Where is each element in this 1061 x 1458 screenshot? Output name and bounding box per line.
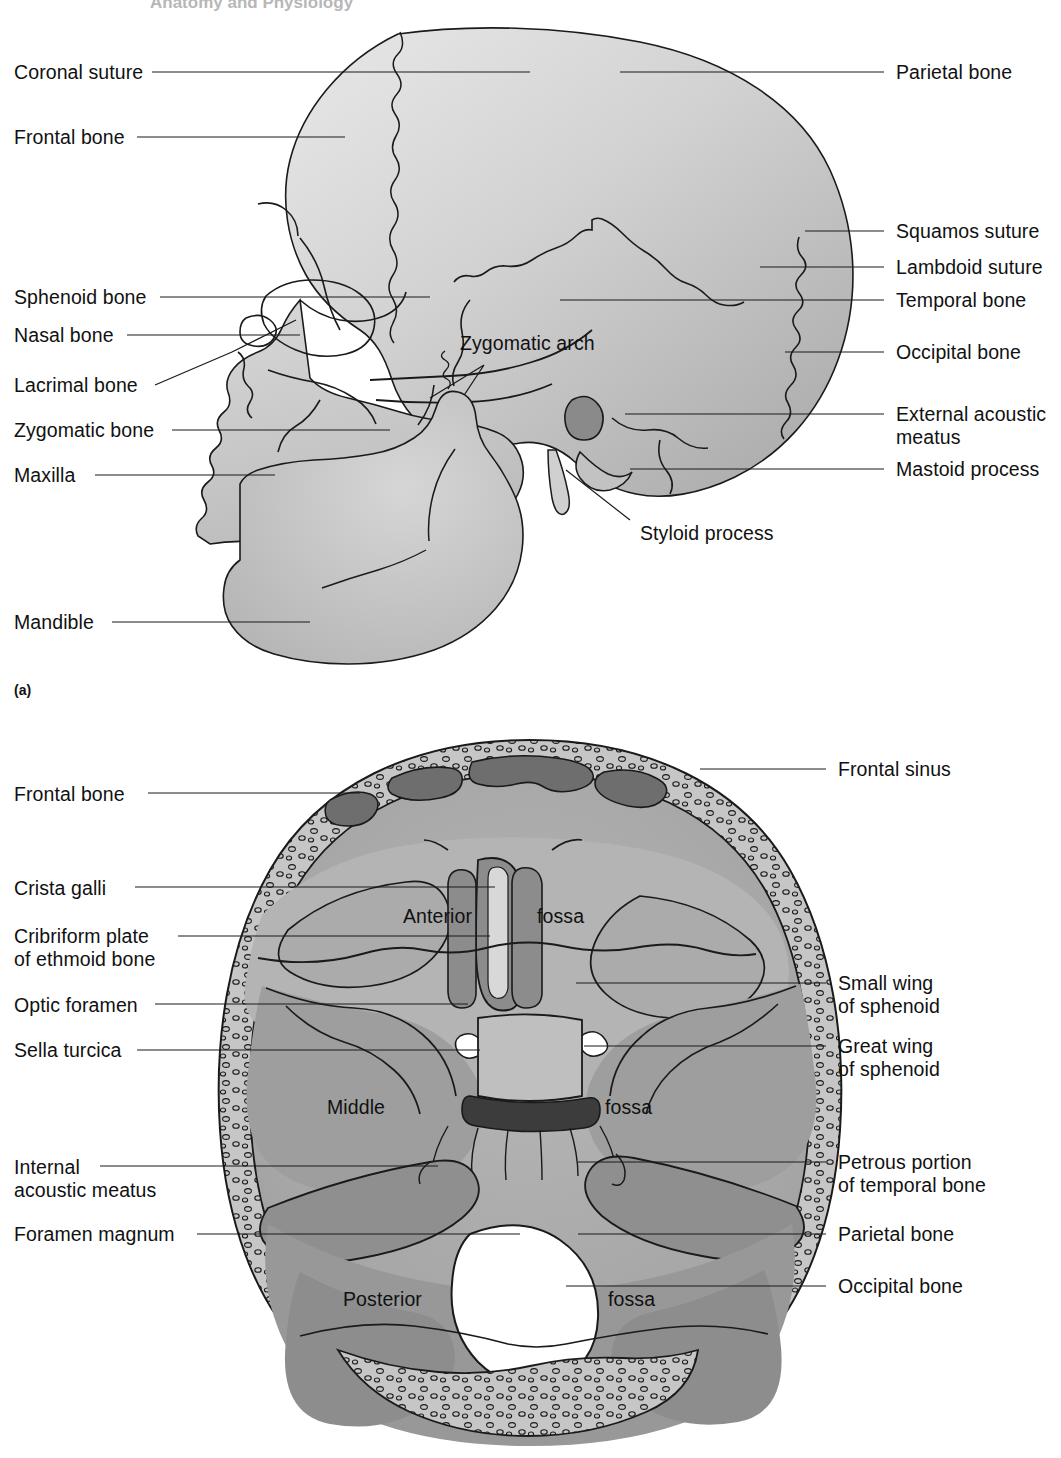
- label-external-acoustic-line2: meatus: [896, 425, 961, 449]
- label-mastoid-process: Mastoid process: [896, 457, 1039, 481]
- label-occipital-bone: Occipital bone: [896, 340, 1021, 364]
- label-fossa-ant: fossa: [537, 904, 584, 928]
- label-great-wing: Great wing: [838, 1034, 933, 1058]
- panel-marker-a: (a): [14, 682, 31, 698]
- external-acoustic-meatus-shape: [565, 396, 603, 440]
- label-crista-galli: Crista galli: [14, 876, 106, 900]
- label-parietal-bone: Parietal bone: [896, 60, 1012, 84]
- label-temporal-bone: Temporal bone: [896, 288, 1026, 312]
- label-nasal-bone: Nasal bone: [14, 323, 114, 347]
- leader-lacrimal-bone: [155, 352, 232, 385]
- label-coronal-suture: Coronal suture: [14, 60, 143, 84]
- label-occipital-bone-b: Occipital bone: [838, 1274, 963, 1298]
- cribriform-plate-left: [448, 870, 476, 1008]
- label-sphenoid-bone: Sphenoid bone: [14, 285, 147, 309]
- label-parietal-bone-b: Parietal bone: [838, 1222, 954, 1246]
- label-small-wing-l2: of sphenoid: [838, 994, 940, 1018]
- label-frontal-bone: Frontal bone: [14, 125, 125, 149]
- label-lambdoid-suture: Lambdoid suture: [896, 255, 1043, 279]
- label-middle: Middle: [327, 1095, 385, 1119]
- label-anterior: Anterior: [403, 904, 472, 928]
- label-cribriform-plate-l2: of ethmoid bone: [14, 947, 155, 971]
- cribriform-plate-right: [512, 868, 542, 1008]
- label-zygomatic-arch: Zygomatic arch: [460, 331, 595, 355]
- sella-turcica-shape: [478, 1014, 582, 1101]
- label-small-wing: Small wing: [838, 971, 933, 995]
- page-header-fragment: Anatomy and Physiology: [150, 0, 353, 13]
- label-fossa-post: fossa: [608, 1287, 655, 1311]
- label-frontal-bone-b: Frontal bone: [14, 782, 125, 806]
- label-petrous-portion-l2: of temporal bone: [838, 1173, 986, 1197]
- label-foramen-magnum: Foramen magnum: [14, 1222, 175, 1246]
- label-external-acoustic: External acoustic: [896, 402, 1046, 426]
- label-posterior: Posterior: [343, 1287, 422, 1311]
- label-great-wing-l2: of sphenoid: [838, 1057, 940, 1081]
- label-frontal-sinus: Frontal sinus: [838, 757, 951, 781]
- label-zygomatic-bone: Zygomatic bone: [14, 418, 154, 442]
- label-squamos-suture: Squamos suture: [896, 219, 1039, 243]
- label-optic-foramen: Optic foramen: [14, 993, 138, 1017]
- label-petrous-portion: Petrous portion: [838, 1150, 972, 1174]
- label-mandible: Mandible: [14, 610, 94, 634]
- label-acoustic-meatus: acoustic meatus: [14, 1178, 156, 1202]
- label-fossa-mid: fossa: [605, 1095, 652, 1119]
- label-maxilla: Maxilla: [14, 463, 75, 487]
- label-styloid-process: Styloid process: [640, 521, 774, 545]
- label-sella-turcica: Sella turcica: [14, 1038, 122, 1062]
- label-cribriform-plate: Cribriform plate: [14, 924, 149, 948]
- styloid-process-shape: [548, 450, 569, 514]
- nasal-bone-outline: [240, 315, 276, 346]
- label-internal: Internal: [14, 1155, 80, 1179]
- label-lacrimal-bone: Lacrimal bone: [14, 373, 138, 397]
